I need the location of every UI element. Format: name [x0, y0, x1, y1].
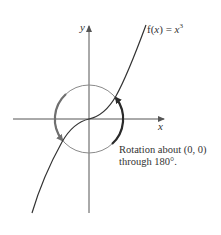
x-axis-label: x: [157, 120, 163, 132]
rotation-annotation-line1: Rotation about (0, 0): [119, 144, 207, 156]
diagram-canvas: y x f(x) = x3 Rotation about (0, 0) thro…: [0, 0, 221, 235]
function-label-middle: ) =: [159, 23, 174, 36]
function-label-exponent: 3: [179, 22, 183, 30]
rotation-arrow-left-icon: [55, 94, 66, 140]
function-label: f(x) = x3: [147, 22, 183, 36]
rotation-annotation-line2: through 180°.: [119, 156, 177, 167]
cubic-rotation-diagram: y x f(x) = x3 Rotation about (0, 0) thro…: [0, 0, 221, 235]
rotation-arrow-right-icon: [112, 98, 123, 144]
y-axis-label: y: [79, 21, 85, 33]
